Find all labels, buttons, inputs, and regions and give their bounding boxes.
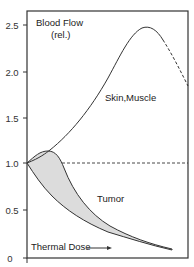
arrow-right-icon (87, 246, 112, 250)
skin-muscle-curve-dashed (163, 40, 188, 86)
tick-1.0: 1.0 (5, 158, 18, 169)
tick-2.5: 2.5 (5, 20, 18, 31)
tick-1.5: 1.5 (5, 113, 18, 124)
tick-0: 0 (7, 253, 12, 264)
ylabel-blood-flow: Blood Flow (36, 17, 83, 28)
tick-0.5: 0.5 (5, 205, 18, 216)
ylabel-rel: (rel.) (51, 29, 71, 40)
label-tumor: Tumor (97, 193, 124, 204)
label-skin-muscle: Skin,Muscle (105, 92, 156, 103)
tick-2.0: 2.0 (5, 67, 18, 78)
y-axis-labels: 0 0.5 1.0 1.5 2.0 2.5 (5, 20, 18, 264)
xlabel-thermal-dose: Thermal Dose (31, 241, 91, 252)
plot-frame (27, 11, 188, 258)
blood-flow-chart: 0 0.5 1.0 1.5 2.0 2.5 Blood Flow (rel.) … (0, 0, 194, 267)
